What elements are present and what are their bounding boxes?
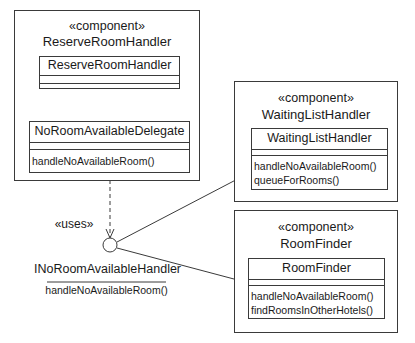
class-reserveroomhandler[interactable]: ReserveRoomHandler xyxy=(39,56,180,89)
class-waitinglisthandler[interactable]: WaitingListHandler handleNoAvailableRoom… xyxy=(251,128,388,190)
component-stereotype: «component» xyxy=(15,19,199,34)
class-roomfinder[interactable]: RoomFinder handleNoAvailableRoom() findR… xyxy=(248,258,385,319)
component-name: WaitingListHandler xyxy=(235,107,397,122)
component-name: ReserveRoomHandler xyxy=(15,34,199,49)
realization-line-waitinglist xyxy=(117,172,251,242)
class-operation: findRoomsInOtherHotels() xyxy=(251,303,384,317)
component-name: RoomFinder xyxy=(235,236,397,251)
class-operation: handleNoAvailableRoom() xyxy=(251,289,384,303)
class-name: ReserveRoomHandler xyxy=(40,57,179,76)
class-attributes-compartment xyxy=(30,143,189,150)
class-noroomavailabledelegate[interactable]: NoRoomAvailableDelegate handleNoAvailabl… xyxy=(29,121,190,173)
interface-operation: handleNoAvailableRoom() xyxy=(40,284,173,296)
class-attributes-compartment xyxy=(40,76,179,84)
uses-stereotype-label: «uses» xyxy=(54,217,94,231)
class-operation: handleNoAvailableRoom() xyxy=(254,159,387,173)
component-stereotype: «component» xyxy=(235,91,397,106)
component-stereotype: «component» xyxy=(235,220,397,235)
interface-name: INoRoomAvailableHandler xyxy=(20,262,195,276)
class-name: NoRoomAvailableDelegate xyxy=(30,122,189,143)
interface-lollipop-icon xyxy=(103,238,117,252)
class-name: WaitingListHandler xyxy=(252,129,387,150)
class-name: RoomFinder xyxy=(249,259,384,280)
class-operation: handleNoAvailableRoom() xyxy=(30,150,189,168)
class-operation: queueForRooms() xyxy=(254,173,387,187)
